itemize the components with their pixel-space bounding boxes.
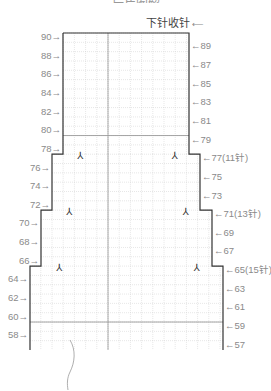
decrease-left-icon: ⅄ <box>77 151 83 161</box>
decrease-left-icon: ⅄ <box>66 207 72 217</box>
row-label-left: 76→ <box>30 163 50 173</box>
row-label-right: ←83 <box>191 97 211 107</box>
row-label-left: 80→ <box>41 125 61 135</box>
row-label-right: ←81 <box>191 116 211 126</box>
row-label-left: 74→ <box>30 181 50 191</box>
row-label-right: ←77(11针) <box>202 153 248 163</box>
row-label-right: ←57 <box>225 340 245 350</box>
row-label-left: 90→ <box>41 32 61 42</box>
row-label-left: 68→ <box>19 237 39 247</box>
decrease-right-icon: ⅄ <box>183 207 189 217</box>
row-label-right: ←69 <box>214 228 234 238</box>
scroll-curve-decoration <box>60 340 90 391</box>
row-label-left: 72→ <box>30 200 50 210</box>
decrease-right-icon: ⅄ <box>194 263 200 273</box>
row-label-right: ←65(15针) <box>225 265 271 275</box>
row-label-left: 88→ <box>41 51 61 61</box>
row-label-left: 84→ <box>41 88 61 98</box>
row-label-left: 58→ <box>8 330 28 340</box>
row-label-left: 62→ <box>8 293 28 303</box>
row-label-right: ←75 <box>202 172 222 182</box>
row-label-left: 70→ <box>19 218 39 228</box>
row-label-right: ←71(13针) <box>214 209 261 219</box>
row-label-right: ←63 <box>225 284 245 294</box>
row-label-right: ←79 <box>191 135 211 145</box>
row-label-left: 78→ <box>41 144 61 154</box>
row-label-left: 64→ <box>8 274 28 284</box>
decrease-left-icon: ⅄ <box>56 263 62 273</box>
row-label-right: ←85 <box>191 79 211 89</box>
row-label-left: 82→ <box>41 107 61 117</box>
decrease-right-icon: ⅄ <box>172 151 178 161</box>
row-label-left: 86→ <box>41 69 61 79</box>
row-label-right: ←73 <box>202 191 222 201</box>
row-label-left: 66→ <box>19 256 39 266</box>
row-label-right: ←87 <box>191 60 211 70</box>
row-label-right: ←61 <box>225 302 245 312</box>
row-label-right: ←59 <box>225 321 245 331</box>
row-label-left: 60→ <box>8 312 28 322</box>
row-label-right: ←67 <box>214 246 234 256</box>
row-label-right: ←89 <box>191 41 211 51</box>
